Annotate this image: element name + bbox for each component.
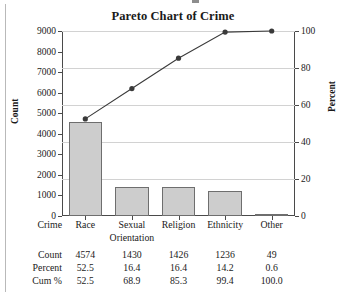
- y-axis-right-tick: [295, 68, 299, 69]
- y-axis-left-tick-label: 5000: [37, 108, 56, 118]
- y-axis-left-tick-label: 9000: [37, 26, 56, 36]
- table-cell: Sexual: [119, 219, 146, 230]
- y-axis-left-tick: [58, 31, 62, 32]
- y-axis-left-tick: [58, 195, 62, 196]
- table-row-label: Crime: [0, 219, 62, 230]
- y-axis-right-tick-label: 20: [301, 174, 311, 184]
- y-axis-right-tick-label: 60: [301, 100, 311, 110]
- y-axis-right-tick-label: 80: [301, 63, 311, 73]
- table-cell: 0.6: [266, 262, 278, 273]
- y-axis-right-title: Percent: [327, 81, 337, 112]
- table-row-label: Count: [0, 249, 62, 260]
- chart-title: Pareto Chart of Crime: [0, 9, 346, 24]
- table-cell: 85.3: [170, 275, 187, 286]
- y-axis-left-tick: [58, 134, 62, 135]
- y-axis-left-tick: [58, 52, 62, 53]
- table-cell: 4574: [76, 249, 96, 260]
- table-cell: Race: [76, 219, 96, 230]
- table-cell: 100.0: [261, 275, 283, 286]
- table-cell: 14.2: [217, 262, 234, 273]
- y-axis-left-tick-label: 3000: [37, 149, 56, 159]
- y-axis-left-tick-label: 7000: [37, 67, 56, 77]
- table-cell: 1426: [169, 249, 189, 260]
- scan-artifact: [192, 0, 199, 3]
- y-axis-right-tick: [295, 142, 299, 143]
- table-cell: 1236: [215, 249, 235, 260]
- data-point-marker: [176, 56, 181, 61]
- y-axis-left-tick: [58, 154, 62, 155]
- table-cell: 1430: [122, 249, 142, 260]
- cumulative-line-path: [85, 31, 271, 119]
- plot-area: 0100020003000400050006000700080009000 02…: [62, 31, 295, 216]
- y-axis-left-tick: [58, 175, 62, 176]
- table-row-label: Percent: [0, 262, 62, 273]
- y-axis-left-tick: [58, 93, 62, 94]
- table-row: CrimeRaceSexualReligionEthnicityOther: [0, 219, 346, 232]
- y-axis-left-tick-label: 1000: [37, 190, 56, 200]
- y-axis-right-tick: [295, 105, 299, 106]
- table-cell: 68.9: [123, 275, 140, 286]
- y-axis-left-tick-label: 2000: [37, 170, 56, 180]
- y-axis-right-tick: [295, 31, 299, 32]
- table-row: Cum %52.568.985.399.4100.0: [0, 275, 346, 288]
- table-cell: 16.4: [123, 262, 140, 273]
- y-axis-right-tick-label: 40: [301, 137, 311, 147]
- y-axis-left-tick: [58, 113, 62, 114]
- table-cell: 99.4: [217, 275, 234, 286]
- table-row-label: Cum %: [0, 275, 62, 286]
- table-cell: 52.5: [77, 275, 94, 286]
- y-axis-right-tick-label: 100: [301, 26, 315, 36]
- data-point-marker: [129, 86, 134, 91]
- table-row: Percent52.516.416.414.20.6: [0, 262, 346, 275]
- table-cell: 16.4: [170, 262, 187, 273]
- table-cell: 52.5: [77, 262, 94, 273]
- data-point-marker: [269, 28, 274, 33]
- table-cell: Orientation: [110, 232, 155, 243]
- data-point-marker: [83, 116, 88, 121]
- y-axis-left-tick-label: 8000: [37, 47, 56, 57]
- cumulative-percent-line: [62, 31, 295, 216]
- table-row: Orientation: [0, 232, 346, 245]
- table-row: Count457414301426123649: [0, 249, 346, 262]
- table-cell: 49: [267, 249, 277, 260]
- table-cell: Other: [261, 219, 283, 230]
- y-axis-right-tick: [295, 216, 299, 217]
- pareto-chart-figure: Pareto Chart of Crime Count Percent 0100…: [0, 0, 346, 301]
- y-axis-left-tick: [58, 72, 62, 73]
- table-cell: Religion: [162, 219, 196, 230]
- y-axis-left-tick-label: 6000: [37, 88, 56, 98]
- y-axis-left-tick: [58, 216, 62, 217]
- data-point-marker: [223, 30, 228, 35]
- y-axis-left-tick-label: 4000: [37, 129, 56, 139]
- y-axis-left-title: Count: [10, 99, 20, 124]
- y-axis-right-tick: [295, 179, 299, 180]
- table-cell: Ethnicity: [207, 219, 243, 230]
